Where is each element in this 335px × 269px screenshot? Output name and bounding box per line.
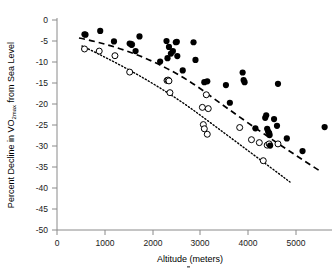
y-axis-title-trail: from Sea Level [6, 42, 16, 105]
data-point [205, 106, 211, 112]
data-point [299, 148, 305, 154]
data-point [256, 140, 262, 146]
y-tick-label: -10 [36, 57, 49, 67]
data-point [204, 78, 210, 84]
data-point [240, 69, 246, 75]
data-point [166, 78, 172, 84]
data-point [180, 67, 186, 73]
y-axis-title-lead: Percent Decline in V [6, 127, 16, 209]
y-tick-label: -35 [36, 162, 49, 172]
data-point [127, 69, 133, 75]
data-point [157, 58, 163, 64]
data-point [274, 123, 280, 129]
data-point [190, 39, 196, 45]
data-point [112, 53, 118, 59]
data-point [248, 137, 254, 143]
data-point [82, 46, 88, 52]
y-tick-label: -15 [36, 78, 49, 88]
data-point [322, 124, 328, 130]
data-point [284, 135, 290, 141]
y-tick-label: -40 [36, 183, 49, 193]
scatter-plot: 0 -5 -10 -15 -20 -25 -30 -35 -40 -45 -50… [0, 0, 335, 269]
data-point [174, 53, 180, 59]
data-point [267, 142, 273, 148]
x-tick-label: 3000 [191, 238, 210, 248]
x-tick-label: 4000 [239, 238, 258, 248]
y-tick-label: -25 [36, 120, 49, 130]
x-tick-label: 0 [55, 238, 60, 248]
data-point [252, 125, 258, 131]
chart-figure: 0 -5 -10 -15 -20 -25 -30 -35 -40 -45 -50… [0, 0, 335, 269]
y-axis-title-o: O [6, 120, 16, 127]
data-point [199, 104, 205, 110]
data-point [111, 38, 117, 44]
data-point [170, 48, 176, 54]
data-point [192, 57, 198, 63]
y-tick-label: -5 [40, 36, 48, 46]
data-point [96, 48, 102, 54]
data-point [267, 132, 273, 138]
data-point [167, 90, 173, 96]
y-tick-label: 0 [43, 15, 48, 25]
data-point [204, 131, 210, 137]
data-point [129, 42, 135, 48]
y-axis-title-subscript: 2max [11, 105, 17, 120]
data-point [237, 125, 243, 131]
y-axis-title: Percent Decline in VO2max from Sea Level [6, 42, 17, 208]
data-point [82, 32, 88, 38]
y-tick-label: -50 [36, 225, 49, 235]
x-tick-label: 5000 [287, 238, 306, 248]
data-point [271, 116, 277, 122]
y-tick-label: -20 [36, 99, 49, 109]
data-point [241, 79, 247, 85]
data-point [136, 33, 142, 39]
data-point [97, 28, 103, 34]
data-point [203, 92, 209, 98]
data-point [174, 39, 180, 45]
x-axis-title: Altitude (meters) [157, 254, 223, 264]
data-point [263, 112, 269, 118]
x-tick-label: 2000 [144, 238, 163, 248]
data-point [163, 38, 169, 44]
data-point [275, 81, 281, 87]
data-point [260, 158, 266, 164]
data-point [227, 100, 233, 106]
y-tick-label: -45 [36, 204, 49, 214]
data-point [275, 141, 281, 147]
svg-text:Percent Decline in VO2max from: Percent Decline in VO2max from Sea Level [6, 42, 17, 208]
y-tick-label: -30 [36, 141, 49, 151]
data-point [132, 48, 138, 54]
x-tick-label: 1000 [96, 238, 115, 248]
stray-scan-mark [187, 266, 190, 268]
data-point [223, 82, 229, 88]
